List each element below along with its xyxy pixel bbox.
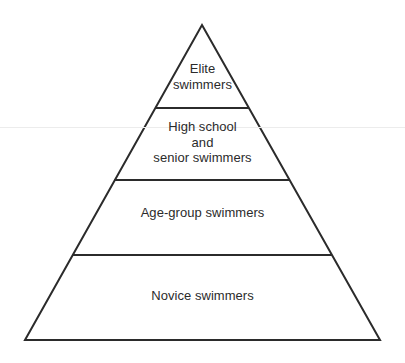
pyramid-diagram: Elite swimmers High school and senior sw… xyxy=(0,0,405,363)
pyramid-outline xyxy=(25,25,380,340)
pyramid-outline-svg xyxy=(0,0,405,363)
